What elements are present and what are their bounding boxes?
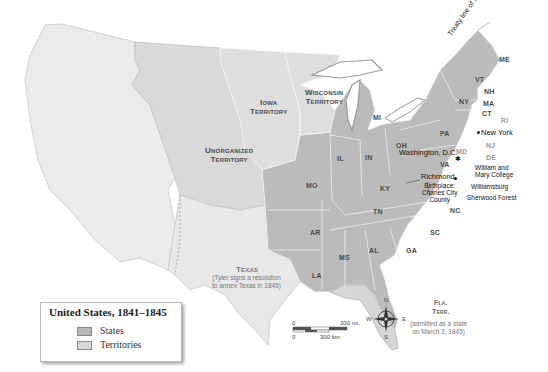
city-sherwood-forest: Sherwood Forest: [467, 194, 517, 201]
legend-swatch-territories: [77, 341, 92, 350]
label-state-in: IN: [365, 154, 372, 161]
label-state-nc: NC: [450, 207, 461, 214]
label-state-ar: AR: [310, 229, 321, 236]
label-state-mi: MI: [373, 114, 381, 121]
label-state-va: VA: [440, 161, 450, 168]
label-state-ct: CT: [482, 110, 492, 117]
label-state-ky: KY: [380, 185, 390, 192]
legend-item-territories: Territories: [77, 339, 142, 350]
label-state-md: MD: [456, 148, 467, 155]
legend-swatch-states: [77, 327, 92, 336]
legend-item-states: States: [77, 325, 124, 336]
city-richmond: Richmond: [421, 172, 455, 181]
scale-300-mi: 300 mi.: [340, 320, 360, 326]
scale-300-km: 300 km: [320, 334, 340, 340]
compass-w: W: [366, 316, 372, 322]
scale-zero-km: 0: [292, 334, 295, 340]
label-state-ms: MS: [339, 254, 350, 261]
label-state-me: ME: [499, 56, 510, 63]
city-dot-new-york: [477, 131, 480, 134]
label-state-de: DE: [486, 154, 496, 161]
legend-title: United States, 1841–1845: [49, 306, 167, 318]
label-texas: Texas: [236, 265, 258, 274]
scale-zero-mi: 0: [292, 320, 295, 326]
compass-n: N: [384, 297, 388, 303]
treaty-line-leader: [478, 22, 490, 30]
label-state-ri: RI: [501, 117, 508, 124]
label-state-vt: VT: [475, 76, 484, 83]
city-william-and-mary: William andMary College: [475, 164, 513, 178]
label-iowa-territory: IowaTerritory: [250, 98, 287, 116]
map-legend: United States, 1841–1845 States Territor…: [40, 302, 182, 362]
compass-s: S: [384, 334, 388, 340]
label-state-ma: MA: [483, 100, 494, 107]
label-state-tn: TN: [373, 208, 383, 215]
city-williamsburg: Williamsburg: [471, 183, 508, 190]
label-state-nj: NJ: [486, 142, 495, 149]
label-state-ga: GA: [406, 247, 417, 254]
scale-bar: [293, 327, 347, 332]
label-state-la: LA: [312, 272, 322, 279]
label-state-pa: PA: [440, 130, 450, 137]
label-unorganized-territory: UnorganizedTerritory: [205, 146, 253, 164]
label-state-nh: NH: [484, 88, 495, 95]
label-state-mo: MO: [306, 182, 318, 189]
compass-e: E: [402, 316, 406, 322]
city-washington-dc: Washington, D.C.: [399, 148, 458, 157]
label-wisconsin-territory: WisconsinTerritory: [305, 88, 343, 106]
label-state-il: IL: [337, 155, 344, 162]
label-state-ny: NY: [459, 98, 469, 105]
capital-star-icon: ✱: [455, 155, 461, 163]
city-birthplace-charles-city: Birthplace:Charles CityCounty: [422, 182, 457, 203]
note-florida: (admitted as a stateon March 3, 1845): [410, 320, 467, 335]
label-state-al: AL: [369, 247, 379, 254]
label-state-sc: SC: [430, 229, 440, 236]
label-florida-territory: Fla.Terr.: [432, 298, 450, 316]
city-new-york: New York: [481, 128, 513, 137]
note-texas: (Tyler signs a resolutionto annex Texas …: [212, 274, 281, 289]
